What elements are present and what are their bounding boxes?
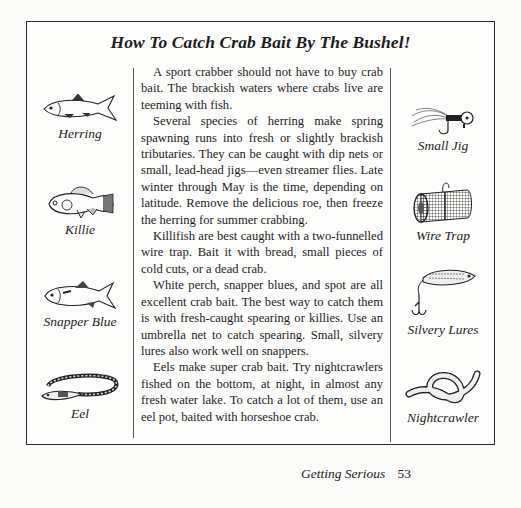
small-jig-icon — [408, 104, 478, 138]
caption-small-jig: Small Jig — [391, 138, 495, 154]
snapper-blue-icon — [39, 278, 121, 314]
silvery-lure-icon — [407, 266, 479, 322]
caption-nightcrawler: Nightcrawler — [391, 410, 495, 426]
illustration-silvery-lure: Silvery Lures — [391, 266, 495, 338]
paragraph: Several species of herring make spring s… — [141, 113, 383, 228]
left-divider — [133, 68, 134, 438]
killie-icon — [41, 182, 119, 222]
illustration-nightcrawler: Nightcrawler — [391, 364, 495, 426]
illustration-wire-trap: Wire Trap — [391, 180, 495, 244]
sidebar-box: How To Catch Crab Bait By The Bushel! He… — [26, 21, 495, 445]
illustration-killie: Killie — [27, 182, 133, 238]
page-number: 53 — [397, 466, 411, 481]
eel-icon — [38, 370, 122, 406]
section-title: Getting Serious — [301, 466, 385, 481]
box-title: How To Catch Crab Bait By The Bushel! — [27, 32, 494, 53]
illustration-snapper-blue: Snapper Blue — [27, 278, 133, 330]
illustration-small-jig: Small Jig — [391, 104, 495, 154]
paragraph: White perch, snapper blues, and spot are… — [141, 277, 383, 359]
caption-eel: Eel — [27, 406, 133, 422]
illustration-eel: Eel — [27, 370, 133, 422]
illustration-herring: Herring — [27, 92, 133, 142]
nightcrawler-icon — [403, 364, 483, 410]
caption-herring: Herring — [27, 126, 133, 142]
page-footer: Getting Serious53 — [301, 466, 411, 482]
herring-icon — [38, 92, 122, 126]
paragraph: A sport crabber should not have to buy c… — [141, 64, 383, 113]
paragraph: Eels make super crab bait. Try nightcraw… — [141, 359, 383, 425]
caption-killie: Killie — [27, 222, 133, 238]
article-body: A sport crabber should not have to buy c… — [141, 64, 383, 425]
caption-snapper-blue: Snapper Blue — [27, 314, 133, 330]
wire-trap-icon — [411, 180, 475, 228]
caption-silvery-lure: Silvery Lures — [391, 322, 495, 338]
caption-wire-trap: Wire Trap — [391, 228, 495, 244]
paragraph: Killifish are best caught with a two-fun… — [141, 228, 383, 277]
